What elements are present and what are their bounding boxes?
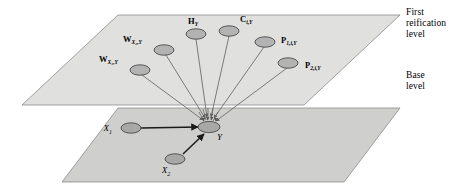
node-x2[interactable] xyxy=(165,154,185,164)
first-reification-level-plane xyxy=(22,15,400,105)
node-c-i-y[interactable] xyxy=(219,26,239,36)
caption-base-level: Base level xyxy=(406,70,425,92)
caption-first-reification-level: First reification level xyxy=(406,7,446,40)
node-w-x1-y[interactable] xyxy=(130,65,150,75)
reification-diagram: WX₁,Y WX₂,Y HY Ci,Y P1,i,Y P2,i,Y X1 xyxy=(0,0,463,186)
node-p1-i-y[interactable] xyxy=(255,37,275,47)
diagram-canvas: WX₁,Y WX₂,Y HY Ci,Y P1,i,Y P2,i,Y X1 xyxy=(0,0,463,186)
edge-x1-y xyxy=(141,127,198,128)
node-h-y[interactable] xyxy=(186,29,206,39)
node-w-x2-y[interactable] xyxy=(154,45,174,55)
node-x1[interactable] xyxy=(121,123,141,133)
node-y[interactable] xyxy=(198,121,220,132)
node-p2-i-y[interactable] xyxy=(278,58,298,68)
base-level-plane xyxy=(62,108,400,182)
